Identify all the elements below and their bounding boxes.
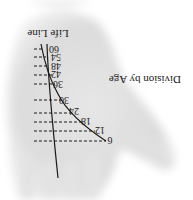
age-label-24: 24 — [69, 106, 79, 117]
diagram-canvas: 6 12 18 24 30 36 42 48 54 60 Life Line D… — [0, 0, 193, 200]
palm-life-line-diagram: 6 12 18 24 30 36 42 48 54 60 Life Line D… — [0, 0, 193, 200]
life-line-title: Life Line — [27, 28, 68, 40]
age-label-12: 12 — [95, 125, 105, 136]
age-label-60: 60 — [49, 44, 59, 55]
age-label-18: 18 — [81, 116, 91, 127]
division-by-age-caption: Division by Age — [109, 74, 181, 86]
age-label-30: 30 — [59, 95, 69, 106]
age-label-6: 6 — [108, 135, 113, 146]
